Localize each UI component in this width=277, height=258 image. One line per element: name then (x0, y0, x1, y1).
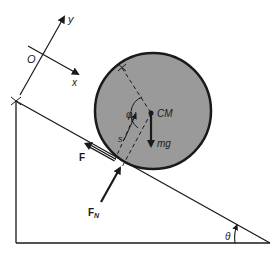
s-label: s (118, 134, 123, 144)
center-of-mass-point (149, 111, 154, 116)
y-axis-label: y (67, 13, 75, 25)
phi-label: φ (126, 109, 133, 120)
gravity-label: mg (157, 138, 171, 149)
theta-label: θ (225, 231, 231, 242)
theta-arc (235, 225, 237, 243)
normal-force-arrow (101, 168, 120, 202)
disk (95, 53, 211, 169)
incline-angle-marker: θ (225, 225, 237, 243)
coordinate-axes: y x O (20, 13, 78, 95)
x-axis-label: x (71, 77, 78, 88)
cm-label: CM (157, 108, 173, 119)
rolling-disk: s φ CM (95, 53, 211, 169)
origin-label: O (27, 53, 36, 65)
inclined-plane-diagram: y x O θ s φ CM (0, 0, 277, 258)
normal-force-label: FN (88, 207, 100, 219)
friction-label: F (79, 152, 85, 163)
